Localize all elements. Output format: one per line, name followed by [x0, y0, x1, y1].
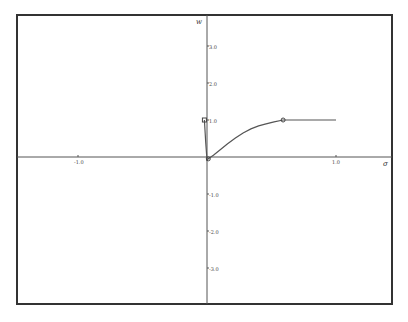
y-axis-label: w — [196, 18, 202, 26]
x-axis-label: σ — [383, 160, 388, 168]
y-tick-label: -1.0 — [209, 192, 219, 198]
y-tick-label: 1.0 — [209, 118, 217, 124]
y-tick-label: -3.0 — [209, 266, 219, 272]
x-tick-label: -1.0 — [74, 159, 84, 165]
y-tick-label: 2.0 — [209, 81, 217, 87]
x-tick-label: 1.0 — [332, 159, 340, 165]
y-tick-label: -2.0 — [209, 229, 219, 235]
data-curve — [204, 120, 336, 160]
chart: -1.01.03.02.01.0-1.0-2.0-3.0 σ w — [0, 0, 408, 322]
y-tick-label: 3.0 — [209, 44, 217, 50]
